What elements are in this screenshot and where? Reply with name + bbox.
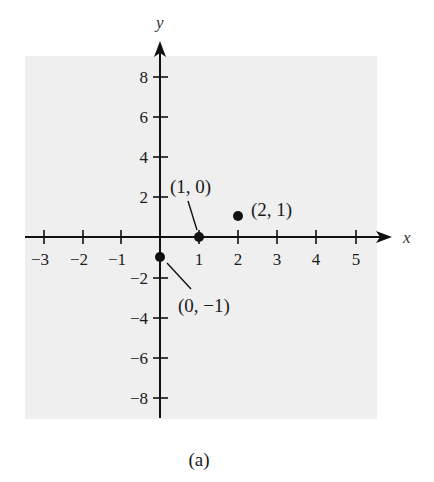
coordinate-plane-figure: x y −3 −2 −1 1 2 3 4 5 8 6 4 2 (0, 0, 434, 482)
figure-caption: (a) (188, 449, 209, 471)
svg-text:6: 6 (140, 108, 149, 127)
point-0-neg1 (155, 252, 165, 262)
point-2-1 (233, 211, 243, 221)
svg-text:4: 4 (312, 250, 321, 269)
svg-text:3: 3 (273, 250, 282, 269)
point-label-1-0: (1, 0) (170, 176, 211, 198)
svg-text:−3: −3 (31, 250, 49, 269)
x-axis-label: x (402, 228, 411, 247)
x-tick-labels: −3 −2 −1 1 2 3 4 5 (31, 250, 360, 269)
point-1-0 (194, 232, 204, 242)
svg-text:1: 1 (195, 250, 204, 269)
svg-text:−6: −6 (130, 349, 148, 368)
y-axis-label: y (154, 13, 164, 32)
svg-text:−4: −4 (130, 309, 149, 328)
svg-text:−2: −2 (70, 250, 88, 269)
svg-text:−2: −2 (130, 269, 148, 288)
svg-text:4: 4 (140, 148, 149, 167)
svg-text:2: 2 (234, 250, 243, 269)
svg-text:2: 2 (140, 188, 149, 207)
svg-text:−1: −1 (108, 250, 126, 269)
point-label-2-1: (2, 1) (251, 199, 292, 221)
svg-text:5: 5 (352, 250, 361, 269)
svg-text:−8: −8 (130, 389, 148, 408)
svg-text:8: 8 (140, 68, 149, 87)
point-label-0-neg1: (0, −1) (178, 295, 230, 317)
